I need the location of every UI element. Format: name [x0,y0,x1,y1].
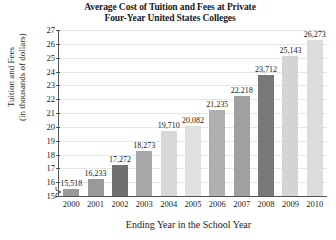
y-axis-tick-mark [56,113,60,114]
y-axis-tick-label: 20 [47,122,56,132]
y-axis-tick-mark [56,58,60,59]
bar-value-label: 26,273 [304,30,326,39]
x-axis-tick-label: 2002 [111,199,128,209]
bar-value-label: 15,518 [60,179,82,188]
y-axis-label-line-2: (in thousands of dollars) [17,2,28,152]
y-axis-tick-mark [56,72,60,73]
y-axis-tick-label: 18 [47,150,56,160]
bar-value-label: 22,218 [231,86,253,95]
bar: 23,7122008 [258,75,274,196]
bar-value-label: 17,272 [109,155,131,164]
bar-value-label: 21,235 [206,100,228,109]
chart-figure: Average Cost of Tuition and Fees at Priv… [0,0,336,240]
bar: 18,2732003 [136,151,152,196]
y-axis-tick-label: 26 [47,39,56,49]
bar-value-label: 20,082 [182,116,204,125]
y-axis-label: Tuition and Fees (in thousands of dollar… [6,2,28,152]
bar: 22,2182007 [234,96,250,196]
y-axis-tick-label: 21 [47,108,56,118]
bar-value-label: 25,143 [279,46,301,55]
bar: 15,5182000 [63,189,79,196]
bar-value-label: 18,273 [133,141,155,150]
chart-title: Average Cost of Tuition and Fees at Priv… [40,2,300,24]
y-axis-tick-mark [56,30,60,31]
bar: 16,2332001 [88,179,104,196]
gridline [59,44,327,45]
y-axis-tick-mark [56,168,60,169]
y-axis-tick-mark [56,44,60,45]
bar-value-label: 19,710 [158,121,180,130]
y-axis-tick-label: 27 [47,25,56,35]
x-axis-tick-label: 2006 [209,199,226,209]
x-axis-tick-label: 2010 [306,199,323,209]
bar: 26,2732010 [307,40,323,196]
y-axis-tick-mark [56,127,60,128]
y-axis-tick-label: 16 [47,177,56,187]
x-axis-tick-label: 2009 [282,199,299,209]
y-axis-tick-label: 19 [47,136,56,146]
y-axis-tick-label: 15 [47,191,56,201]
y-axis-label-line-1: Tuition and Fees [6,2,17,152]
y-axis-tick-mark [56,99,60,100]
x-axis-label: Ending Year in the School Year [46,219,331,230]
x-axis-tick-label: 2001 [87,199,104,209]
plot-area: 2726252423222120191817161515,518200016,2… [58,30,327,197]
x-axis-tick-label: 2007 [233,199,250,209]
y-axis-tick-label: 24 [47,67,56,77]
bar: 19,7102004 [161,131,177,196]
x-axis-tick-label: 2003 [136,199,153,209]
x-axis-tick-label: 2008 [258,199,275,209]
y-axis-tick-label: 22 [47,94,56,104]
bar: 21,2352006 [209,110,225,196]
bar: 20,0822005 [185,126,201,196]
x-axis-tick-label: 2000 [63,199,80,209]
gridline [59,30,327,31]
chart-title-line-1: Average Cost of Tuition and Fees at Priv… [40,2,300,13]
y-axis-tick-label: 17 [47,163,56,173]
y-axis-tick-mark [56,141,60,142]
y-axis-tick-mark [56,85,60,86]
chart-title-line-2: Four-Year United States Colleges [40,13,300,24]
x-axis-tick-label: 2005 [184,199,201,209]
bar-value-label: 16,233 [85,169,107,178]
x-axis-tick-label: 2004 [160,199,177,209]
y-axis-tick-mark [56,196,60,197]
y-axis-tick-label: 25 [47,53,56,63]
bar: 17,2722002 [112,165,128,196]
bar-value-label: 23,712 [255,65,277,74]
y-axis-tick-label: 23 [47,80,56,90]
y-axis-tick-mark [56,155,60,156]
bar: 25,1432009 [282,56,298,196]
